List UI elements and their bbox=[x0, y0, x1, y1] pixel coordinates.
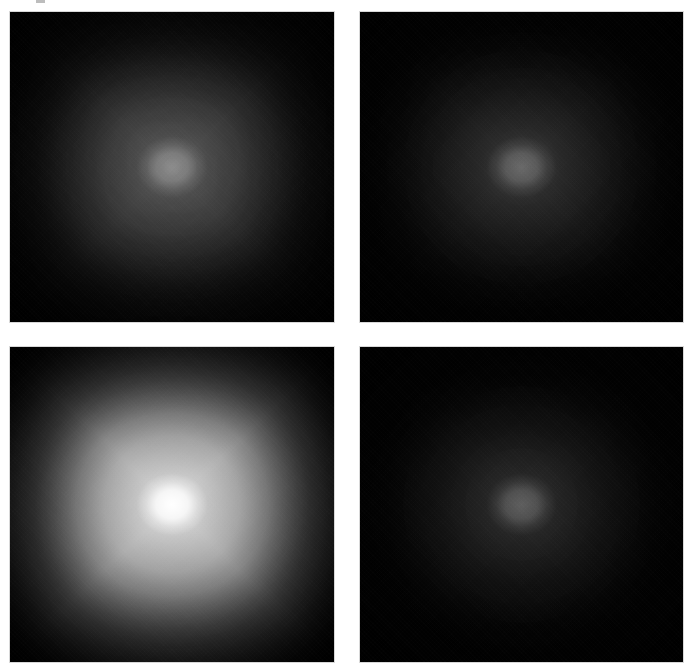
glow-halo-layer bbox=[360, 12, 683, 322]
glow-halo-layer bbox=[10, 12, 334, 322]
diagonal-ray-layer-a bbox=[360, 347, 683, 662]
scan-texture-layer bbox=[10, 347, 334, 662]
scan-texture-layer bbox=[10, 12, 334, 322]
bright-core-layer bbox=[10, 12, 334, 322]
glow-halo-layer bbox=[360, 347, 683, 662]
glow-halo-layer bbox=[10, 347, 334, 662]
image-panel-top-right[interactable] bbox=[360, 12, 683, 322]
bright-core-layer bbox=[360, 347, 683, 662]
crop-tick-mark bbox=[36, 0, 45, 3]
vignette-layer bbox=[360, 347, 683, 662]
scan-texture-layer bbox=[360, 12, 683, 322]
vignette-layer bbox=[360, 12, 683, 322]
diagonal-ray-layer-a bbox=[10, 347, 334, 662]
bright-core-layer bbox=[360, 12, 683, 322]
scan-texture-layer bbox=[360, 347, 683, 662]
diagonal-ray-layer-b bbox=[360, 12, 683, 322]
diagonal-ray-layer-a bbox=[360, 12, 683, 322]
image-panel-top-left[interactable] bbox=[10, 12, 334, 322]
bright-core-layer bbox=[10, 347, 334, 662]
diagonal-ray-layer-b bbox=[10, 12, 334, 322]
vignette-layer bbox=[10, 347, 334, 662]
image-panel-bottom-left[interactable] bbox=[10, 347, 334, 662]
figure-root bbox=[0, 0, 693, 672]
diagonal-ray-layer-b bbox=[10, 347, 334, 662]
diagonal-ray-layer-b bbox=[360, 347, 683, 662]
image-panel-bottom-right[interactable] bbox=[360, 347, 683, 662]
vignette-layer bbox=[10, 12, 334, 322]
diagonal-ray-layer-a bbox=[10, 12, 334, 322]
